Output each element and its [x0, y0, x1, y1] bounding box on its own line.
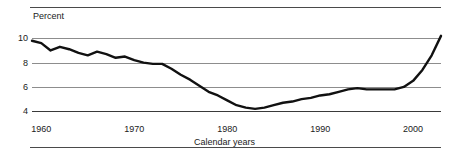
series-line-percent	[32, 36, 441, 109]
y-tick-label-8: 8	[23, 58, 28, 67]
top-rule	[30, 7, 441, 8]
chart-figure: Percent 46810 19601970198019902000 Calen…	[0, 0, 449, 154]
y-tick-label-6: 6	[23, 82, 28, 91]
x-tick-label-1990: 1990	[310, 125, 330, 134]
y-tick-label-4: 4	[23, 107, 28, 116]
x-tick-label-1970: 1970	[124, 125, 144, 134]
x-axis-title: Calendar years	[0, 138, 449, 147]
y-axis-title: Percent	[33, 12, 64, 21]
bottom-rule	[30, 147, 441, 148]
plot-area: 46810	[32, 31, 441, 121]
x-tick-label-1960: 1960	[31, 125, 51, 134]
series-line-chart	[32, 31, 441, 121]
x-tick-label-2000: 2000	[403, 125, 423, 134]
x-tick-label-1980: 1980	[217, 125, 237, 134]
y-tick-label-10: 10	[18, 34, 28, 43]
